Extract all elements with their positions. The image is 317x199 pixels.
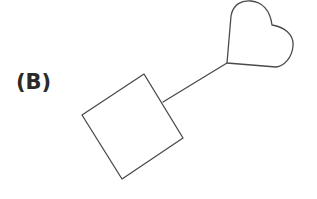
diagram-canvas <box>0 0 317 199</box>
connector-line <box>163 63 227 102</box>
rotated-square <box>82 74 183 179</box>
heart-shape <box>227 1 293 67</box>
